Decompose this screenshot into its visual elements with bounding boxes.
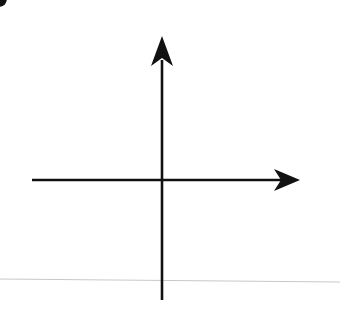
horizontal-rule bbox=[0, 279, 340, 282]
x-axis bbox=[32, 169, 300, 191]
right-endpoint-dot bbox=[0, 0, 7, 7]
y-axis bbox=[151, 36, 173, 300]
graph-canvas bbox=[0, 0, 340, 323]
